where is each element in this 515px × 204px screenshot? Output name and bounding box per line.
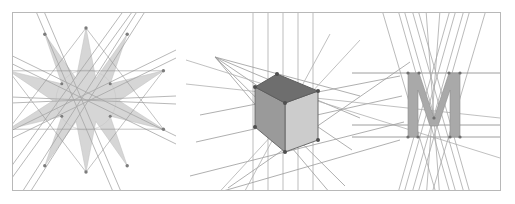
geometric-figure-canvas: Three geometric constructions with proje…: [0, 0, 515, 204]
figure-svg: Three geometric constructions with proje…: [0, 0, 515, 204]
